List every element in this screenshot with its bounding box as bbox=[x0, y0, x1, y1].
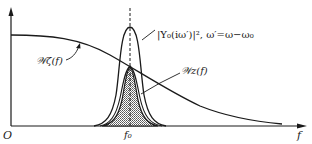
y-axis-arrow-icon bbox=[9, 7, 14, 16]
output-spectrum-label: 𝒲z(f) bbox=[181, 66, 208, 76]
diagram-canvas bbox=[0, 0, 312, 144]
filter-response-label: |Y₀(iω′)|², ω′=ω−ω₀ bbox=[157, 30, 254, 40]
leader-filter-response bbox=[142, 30, 155, 40]
input-spectrum-curve bbox=[11, 35, 282, 124]
x-axis-arrow-icon bbox=[297, 124, 307, 129]
x-axis-label: f bbox=[297, 130, 301, 141]
origin-label: O bbox=[3, 130, 12, 141]
center-frequency-label: f₀ bbox=[124, 130, 132, 140]
input-spectrum-label: 𝒲ζ(f) bbox=[36, 56, 63, 66]
y-axis bbox=[9, 7, 14, 126]
leader-arrow-icon bbox=[76, 43, 81, 49]
